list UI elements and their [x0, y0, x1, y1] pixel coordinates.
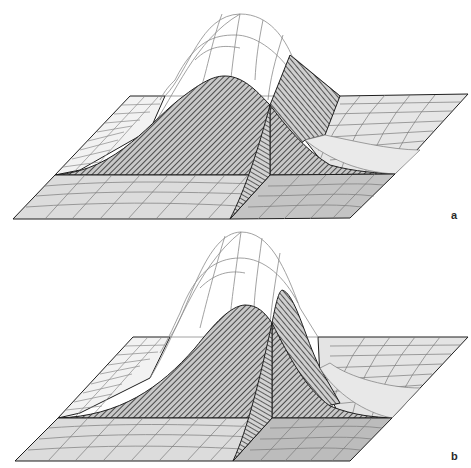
panel-a: a: [0, 0, 471, 228]
front-slab-left: [13, 175, 270, 219]
panel-label-b: b: [451, 450, 458, 462]
surface-plot-a: [0, 0, 471, 228]
panel-b: b: [0, 228, 471, 468]
surface-plot-b: [0, 228, 471, 468]
panel-label-a: a: [451, 209, 457, 221]
